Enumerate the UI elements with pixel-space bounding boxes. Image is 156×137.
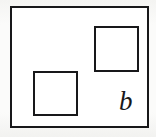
figure-label: b (119, 88, 133, 115)
figure-canvas: b (0, 0, 156, 137)
inner-square-top-right (94, 26, 139, 72)
inner-square-bottom-left (33, 71, 78, 116)
